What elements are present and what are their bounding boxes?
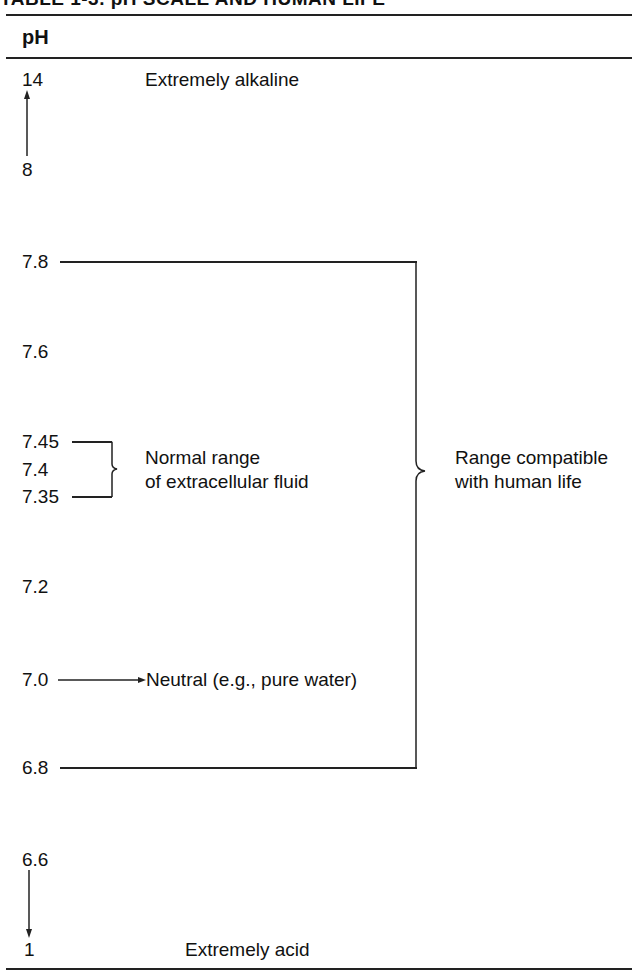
ph-label-7-8: 7.8: [22, 251, 48, 273]
normal-range-label-line1: Normal range: [145, 446, 260, 470]
arrow-up-icon: [20, 90, 34, 160]
compatible-range-label-line2: with human life: [455, 470, 582, 494]
table-title: TABLE 1-3. pH SCALE AND HUMAN LIFE: [0, 0, 385, 10]
extremely-alkaline-label: Extremely alkaline: [145, 69, 299, 91]
top-rule: [6, 14, 632, 16]
ph-label-7-4: 7.4: [22, 459, 48, 481]
ph-label-7-35: 7.35: [22, 486, 59, 508]
ph-label-7-6: 7.6: [22, 341, 48, 363]
header-rule: [6, 57, 632, 59]
ph-label-14: 14: [22, 69, 43, 91]
upper-limit-line: [60, 261, 417, 263]
ph-label-7-0: 7.0: [22, 669, 48, 691]
ph-label-6-6: 6.6: [22, 849, 48, 871]
arrow-down-icon: [22, 870, 36, 940]
ph-label-8: 8: [22, 159, 33, 181]
ph-label-1: 1: [24, 939, 35, 961]
neutral-label: Neutral (e.g., pure water): [146, 669, 357, 691]
column-header-ph: pH: [22, 26, 49, 49]
extremely-acid-label: Extremely acid: [185, 939, 310, 961]
large-brace-icon: [405, 261, 435, 769]
ph-label-7-45: 7.45: [22, 431, 59, 453]
bottom-rule: [6, 968, 632, 970]
small-brace-icon: [105, 441, 125, 499]
normal-range-label-line2: of extracellular fluid: [145, 470, 309, 494]
arrow-right-icon: [58, 675, 146, 685]
ph-label-6-8: 6.8: [22, 757, 48, 779]
lower-limit-line: [60, 767, 417, 769]
compatible-range-label-line1: Range compatible: [455, 446, 608, 470]
ph-label-7-2: 7.2: [22, 576, 48, 598]
